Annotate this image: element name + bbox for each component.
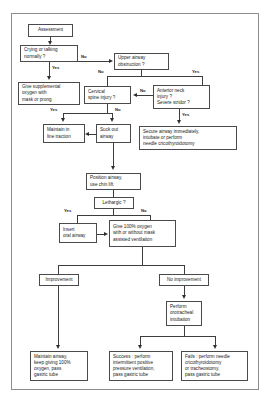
edge-label-anterior-yes: Yes <box>182 113 189 118</box>
edge-label-cervical-no: No <box>115 108 121 113</box>
edge-anterior-no-horizontal <box>136 95 153 96</box>
flowchart-page: Assessment Crying or talking normally ? … <box>0 0 270 402</box>
arrowhead-down-fails <box>213 345 217 349</box>
arrowhead-left-cervical <box>133 93 137 97</box>
node-give-supplemental-oxygen: Give supplemental oxygen with mask or pr… <box>18 82 80 105</box>
node-insert-oral-airway: Insert oral airway <box>59 223 97 243</box>
edge-crying-yes-vertical <box>49 62 50 77</box>
edge-suck-down <box>113 143 114 167</box>
node-position-airway: Position airway, use chin lift <box>86 173 141 190</box>
arrowhead-down-success <box>138 345 142 349</box>
arrowhead-down-supplemental-oxygen <box>47 76 51 80</box>
edge-label-cervical-yes: Yes <box>50 108 57 113</box>
node-fails: Fails : perform needle cricothyroidotomy… <box>181 351 248 381</box>
arrowhead-down-position-airway <box>111 166 115 170</box>
edge-label-crying-no: No <box>81 55 87 60</box>
edge-improvement-down <box>58 286 59 346</box>
arrowhead-right-upper-airway <box>109 59 113 63</box>
arrowhead-down-perform-intubation <box>182 295 186 299</box>
arrowhead-down-maintain-airway <box>56 345 60 349</box>
edge-success-down <box>140 336 141 345</box>
edge-intubation-stem <box>184 326 185 336</box>
edge-improvement-right-down <box>184 265 185 274</box>
node-no-improvement: No improvement <box>159 274 209 286</box>
node-maintain-in-line-traction: Maintain in line traction <box>43 124 85 143</box>
node-perform-orotracheal-intubation: Perform orotracheal intubation <box>166 301 202 326</box>
arrowhead-left-maintain-traction <box>85 132 89 136</box>
edge-give-oxygen-down <box>142 247 143 265</box>
edge-label-upper-yes: Yes <box>192 70 199 75</box>
edge-label-lethargic-no: No <box>141 209 147 214</box>
diagram-frame: Assessment Crying or talking normally ? … <box>11 13 259 390</box>
node-crying-or-talking: Crying or talking normally ? <box>20 45 78 62</box>
node-success: Success : perform intermittent positive … <box>109 351 173 381</box>
edge-label-upper-no: No <box>98 70 104 75</box>
node-maintain-airway: Maintain airway, keep giving 100% oxygen… <box>30 351 88 381</box>
edge-lethargic-no-down <box>150 215 151 220</box>
edge-label-crying-yes: Yes <box>52 66 59 71</box>
node-give-100-percent-oxygen: Give 100% oxygen with or without mask as… <box>109 220 176 247</box>
node-cervical-spine-injury: Cervical spine injury ? <box>84 86 131 104</box>
arrowhead-right-give-oxygen <box>104 232 108 236</box>
node-assessment: Assessment <box>28 24 73 37</box>
edge-upper-airway-split-bar <box>107 76 202 77</box>
node-lethargic: Lethargic ? <box>94 197 134 209</box>
node-suck-out-airway: Suck out airway <box>96 124 131 143</box>
edge-secure-down <box>113 150 114 154</box>
edge-upper-yes-down <box>202 76 203 85</box>
edge-label-anterior-no: No <box>140 89 146 94</box>
edge-improvement-split-bar <box>58 265 184 266</box>
arrowhead-down-suck-out-airway <box>110 118 114 122</box>
arrowhead-down-maintain-traction <box>61 118 65 122</box>
edge-improvement-left-down <box>58 265 59 274</box>
edge-label-lethargic-yes: Yes <box>64 209 71 214</box>
edge-suck-to-maintain <box>88 134 96 135</box>
edge-crying-no-horizontal <box>78 61 110 62</box>
edge-upper-no-down <box>107 76 108 86</box>
node-improvement: Improvement <box>39 274 79 286</box>
node-secure-airway: Secure airway immediately, intubate or p… <box>139 126 237 150</box>
edge-cervical-stem <box>107 104 108 113</box>
arrowhead-down-secure-airway <box>177 120 181 124</box>
edge-lethargic-yes-down <box>77 215 78 223</box>
arrowhead-down-crying <box>48 41 52 45</box>
node-upper-airway-obstruction: Upper airway obstruction ? <box>114 53 169 70</box>
edge-intubation-split-bar <box>140 336 215 337</box>
edge-fails-down <box>215 336 216 345</box>
node-anterior-neck-injury: Anterior neck injury ? Severe stridor ? <box>153 85 210 109</box>
edge-position-to-lethargic <box>113 190 114 197</box>
edge-lethargic-split-bar <box>77 215 150 216</box>
edge-cervical-split-bar <box>63 113 113 114</box>
